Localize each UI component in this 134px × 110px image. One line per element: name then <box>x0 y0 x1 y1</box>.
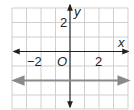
x-tick-label-2: 2 <box>95 54 102 69</box>
coordinate-plane: x y O −2 2 2 <box>0 0 134 110</box>
x-tick-label-neg2: −2 <box>27 54 42 69</box>
y-axis-label: y <box>73 4 82 19</box>
y-tick-label-2: 2 <box>60 15 67 30</box>
origin-label: O <box>57 54 67 69</box>
graph-canvas: x y O −2 2 2 <box>0 0 134 110</box>
x-axis-label: x <box>117 35 125 50</box>
